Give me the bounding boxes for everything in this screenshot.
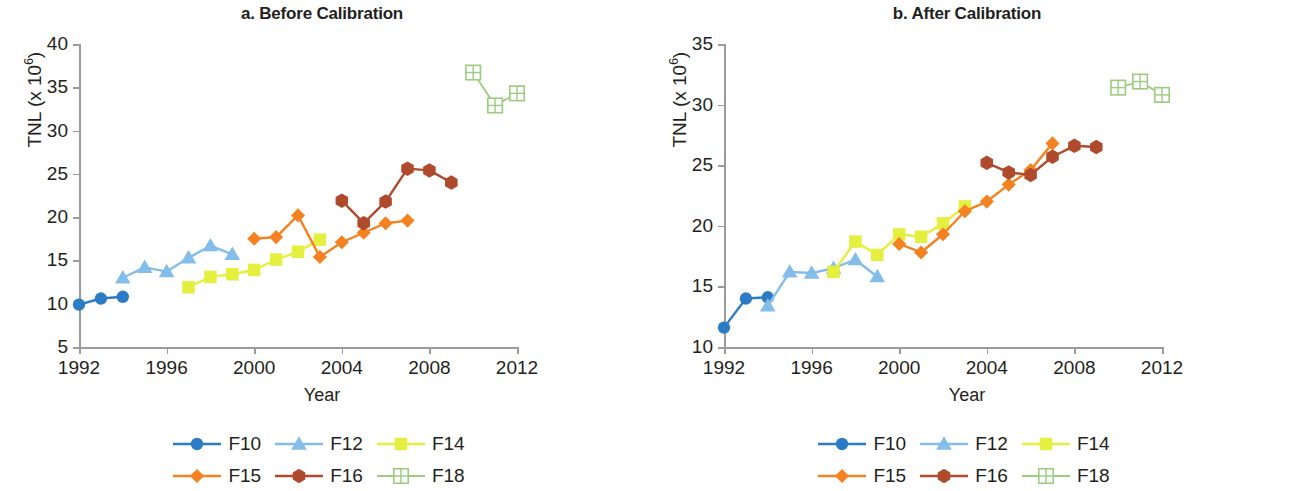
legend-label-f18: F18 [432,465,465,487]
f16-marker-icon [273,465,325,487]
panel-b-x-axis-label: Year [645,385,1289,406]
legend-label-f12: F12 [330,433,363,455]
legend-label-f18: F18 [1077,465,1110,487]
legend-entry-f18[interactable]: F18 [375,465,473,487]
legend-label-f15: F15 [228,465,261,487]
f16-marker-icon [918,465,970,487]
legend-label-f14: F14 [432,433,465,455]
series-f18 [466,65,524,112]
legend-entry-f15[interactable]: F15 [171,465,269,487]
series-f16 [981,139,1103,183]
f18-marker-icon [1020,465,1072,487]
f12-marker-icon [273,433,325,455]
legend-entry-f12[interactable]: F12 [273,433,371,455]
legend-entry-f15[interactable]: F15 [816,465,914,487]
legend-row: F15F16F18 [0,460,644,491]
series-f18 [1111,74,1169,102]
legend-row: F10F12F14 [645,428,1289,460]
legend-entry-f10[interactable]: F10 [816,433,914,455]
series-f10 [73,291,129,311]
f10-marker-icon [816,433,868,455]
legend-row: F10F12F14 [0,428,644,460]
f14-marker-icon [375,433,427,455]
figure-root: a. Before Calibration TNL (x 106) 510152… [0,0,1289,491]
f10-marker-icon [171,433,223,455]
panel-a-x-axis-label: Year [0,385,644,406]
panel-b-series-layer [645,0,1289,491]
panel-b-legend: F10F12F14F15F16F18 [645,428,1289,491]
legend-row: F15F16F18 [645,460,1289,491]
chart-panel-b: b. After Calibration TNL (x 106) 1015202… [645,0,1289,491]
f15-marker-icon [816,465,868,487]
f12-marker-icon [918,433,970,455]
legend-entry-f10[interactable]: F10 [171,433,269,455]
legend-label-f10: F10 [873,433,906,455]
legend-label-f16: F16 [330,465,363,487]
legend-entry-f16[interactable]: F16 [918,465,1016,487]
legend-label-f10: F10 [228,433,261,455]
f15-marker-icon [171,465,223,487]
legend-entry-f18[interactable]: F18 [1020,465,1118,487]
f14-marker-icon [1020,433,1072,455]
legend-label-f15: F15 [873,465,906,487]
series-f12 [760,252,885,312]
chart-panel-a: a. Before Calibration TNL (x 106) 510152… [0,0,644,491]
legend-entry-f12[interactable]: F12 [918,433,1016,455]
f18-marker-icon [375,465,427,487]
legend-entry-f14[interactable]: F14 [1020,433,1118,455]
legend-entry-f14[interactable]: F14 [375,433,473,455]
panel-a-series-layer [0,0,644,491]
series-f10 [718,291,774,334]
panel-a-legend: F10F12F14F15F16F18 [0,428,644,491]
series-f16 [336,161,458,230]
legend-entry-f16[interactable]: F16 [273,465,371,487]
legend-label-f12: F12 [975,433,1008,455]
legend-label-f16: F16 [975,465,1008,487]
legend-label-f14: F14 [1077,433,1110,455]
